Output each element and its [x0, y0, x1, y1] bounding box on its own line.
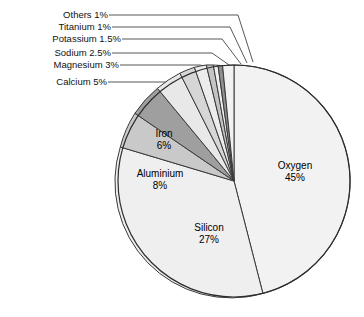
leader-line-potassium	[122, 39, 241, 64]
slice-label-aluminium-name: Aluminium	[124, 168, 196, 180]
slice-label-silicon: Silicon 27%	[178, 222, 240, 246]
slice-label-iron-name: Iron	[140, 128, 188, 140]
callout-label-sodium: Sodium 2.5%	[54, 47, 111, 58]
callout-label-magnesium: Magnesium 3%	[54, 59, 119, 70]
leader-line-others	[109, 15, 253, 62]
callout-label-calcium: Calcium 5%	[56, 76, 107, 87]
slice-label-silicon-name: Silicon	[178, 222, 240, 234]
slice-label-iron: Iron 6%	[140, 128, 188, 152]
pie-chart-figure: Others 1% Titanium 1% Potassium 1.5% Sod…	[0, 0, 364, 317]
slice-label-iron-value: 6%	[140, 140, 188, 152]
slice-label-aluminium-value: 8%	[124, 180, 196, 192]
slice-label-oxygen-name: Oxygen	[262, 160, 328, 172]
slice-label-aluminium: Aluminium 8%	[124, 168, 196, 192]
callout-label-titanium: Titanium 1%	[59, 21, 111, 32]
slice-label-oxygen-value: 45%	[262, 172, 328, 184]
callout-label-others: Others 1%	[63, 9, 108, 20]
callout-label-potassium: Potassium 1.5%	[52, 33, 121, 44]
slice-label-oxygen: Oxygen 45%	[262, 160, 328, 184]
slice-label-silicon-value: 27%	[178, 234, 240, 246]
